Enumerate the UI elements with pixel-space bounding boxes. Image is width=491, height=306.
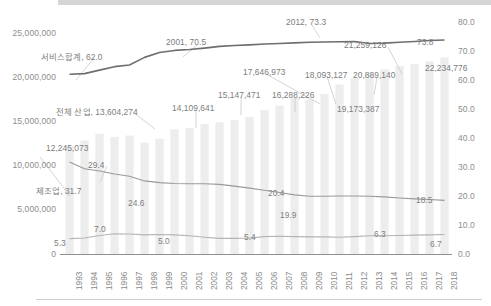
x-tick-2018: 2018 [449,272,459,290]
x-tick-1998: 1998 [149,272,159,290]
x-tick-2000: 2000 [179,272,189,290]
x-tick-2012: 2012 [359,272,369,290]
x-tick-2010: 2010 [329,272,339,290]
data-label-a17: 전체 산업, 13,604,274 [56,105,138,117]
data-label-a02: 2001, 70.5 [166,37,206,47]
bar-1994 [80,140,88,254]
x-tick-2003: 2003 [224,272,234,290]
bar-2002 [200,124,208,254]
y-right-tick-8: 0.0 [458,249,470,259]
chart-screenshot: 25,000,00020,000,00015,000,00010,000,000… [0,0,491,306]
data-label-a14: 5.4 [244,232,256,242]
bar-2017 [425,61,433,254]
bar-1993 [65,146,73,254]
data-label-a09: 19.9 [280,210,297,220]
x-tick-2007: 2007 [284,272,294,290]
y-left-tick-2: 15,000,000 [0,116,56,126]
bar-2014 [380,69,388,254]
data-label-a27: 22,234,776 [425,63,467,73]
bar-2016 [410,64,418,254]
bar-1997 [125,136,133,254]
y-right-tick-4: 40.0 [458,133,475,143]
y-left-tick-4: 5,000,000 [0,204,56,214]
y-right-tick-2: 60.0 [458,75,475,85]
data-label-a07: 24.6 [128,198,145,208]
data-label-a01: 서비스합계, 62.0 [41,50,103,62]
x-tick-2016: 2016 [419,272,429,290]
y-right-tick-5: 30.0 [458,162,475,172]
data-label-a13: 5.0 [158,236,170,246]
x-tick-2006: 2006 [269,272,279,290]
x-tick-2004: 2004 [239,272,249,290]
x-tick-1993: 1993 [74,272,84,290]
y-right-tick-1: 70.0 [458,46,475,56]
x-tick-1994: 1994 [89,272,99,290]
data-label-a18: 12,245,073 [46,143,88,153]
data-label-a22: 17,646,973 [243,67,285,77]
bar-2008 [290,98,298,254]
bar-series-group [65,57,448,254]
x-tick-2014: 2014 [389,272,399,290]
bar-2009 [305,99,313,254]
data-label-a16: 6.7 [430,239,442,249]
bar-2018 [440,57,448,254]
bar-2003 [215,122,223,254]
data-label-a26: 21,259,126 [344,40,386,50]
data-label-a21: 16,288,226 [272,90,314,100]
y-right-tick-3: 50.0 [458,104,475,114]
bar-2010 [320,94,328,254]
y-right-tick-7: 10.0 [458,220,475,230]
data-label-a15: 6.3 [374,229,386,239]
data-label-a10: 18.5 [416,195,433,205]
data-label-a24: 19,173,387 [337,104,379,114]
bar-2006 [260,110,268,254]
data-label-a23: 18,093,127 [305,70,347,80]
x-tick-2013: 2013 [374,272,384,290]
y-right-tick-6: 20.0 [458,191,475,201]
x-tick-2015: 2015 [404,272,414,290]
bottom-divider [36,299,482,300]
data-label-a11: 5.3 [54,238,66,248]
x-tick-1997: 1997 [134,272,144,290]
bar-2007 [275,105,283,254]
y-left-tick-0: 25,000,000 [0,28,56,38]
x-tick-2017: 2017 [434,272,444,290]
x-tick-2009: 2009 [314,272,324,290]
data-label-a19: 14,109,641 [172,103,214,113]
y-right-tick-0: 80.0 [458,17,475,27]
data-label-a03: 2012, 73.3 [286,17,326,27]
x-tick-1995: 1995 [104,272,114,290]
x-tick-2005: 2005 [254,272,264,290]
bar-1996 [110,137,118,254]
y-left-tick-1: 20,000,000 [0,72,56,82]
x-tick-1996: 1996 [119,272,129,290]
x-tick-2002: 2002 [209,272,219,290]
y-left-tick-3: 10,000,000 [0,160,56,170]
data-label-a04: 73.8 [417,37,434,47]
bar-2015 [395,66,403,254]
data-label-a08: 20.4 [268,188,285,198]
data-label-a06: 29.4 [88,160,105,170]
data-label-a20: 15,147,471 [218,90,260,100]
y-left-tick-5: 0 [0,249,56,259]
x-tick-2011: 2011 [344,272,354,290]
x-tick-2008: 2008 [299,272,309,290]
data-label-a12: 7.0 [94,224,106,234]
data-label-a25: 20,889,140 [353,70,395,80]
x-tick-2001: 2001 [194,272,204,290]
data-label-a05: 제조업, 31.7 [36,184,81,196]
x-tick-1999: 1999 [164,272,174,290]
bar-2013 [365,74,373,254]
